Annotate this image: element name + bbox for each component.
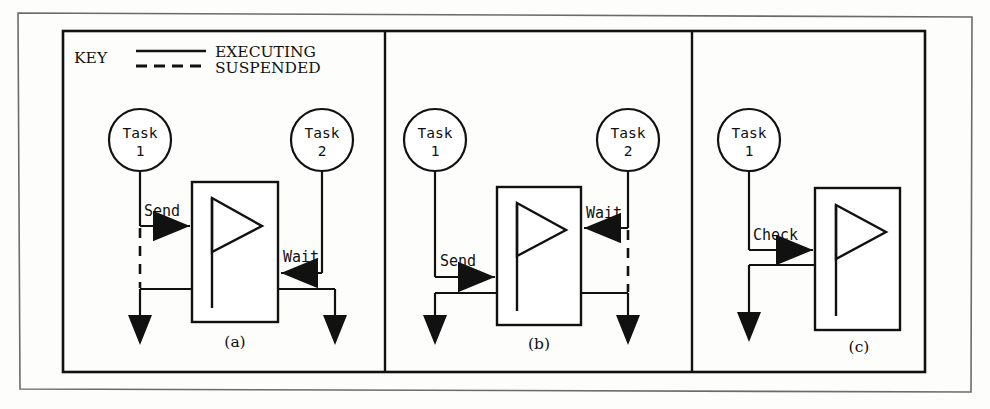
flag-box-rect (815, 188, 900, 330)
panel-c-check-label: Check (753, 226, 798, 244)
panel-b: Task 1 Send Task 2 Wait (b) (404, 109, 659, 353)
panel-a-task2-exit-arrowhead (323, 315, 347, 345)
panel-a: Task 1 Send Task 2 (109, 109, 353, 351)
task-label-line2: 1 (136, 143, 145, 159)
panel-a-caption: (a) (224, 333, 245, 351)
flag-box-rect (497, 187, 581, 325)
panel-a-wait-label: Wait (283, 248, 319, 266)
panel-b-send-label: Send (440, 252, 476, 270)
panel-c-task1-exit-arrowhead (737, 312, 761, 342)
task-label-line1: Task (305, 125, 340, 141)
task-label-line1: Task (732, 125, 767, 141)
panel-a-flag-box[interactable] (192, 182, 278, 322)
task-label-line1: Task (611, 125, 646, 141)
task-label-line2: 2 (318, 143, 327, 159)
panel-c-task1-node[interactable]: Task 1 (718, 109, 780, 171)
legend-heading: KEY (74, 49, 108, 67)
task-label-line2: 1 (431, 143, 440, 159)
panel-a-task1-node[interactable]: Task 1 (109, 109, 171, 171)
panel-b-flag-box[interactable] (497, 187, 581, 325)
task-label-line1: Task (123, 125, 158, 141)
panel-a-send-label: Send (144, 202, 180, 220)
panel-b-task2-exit-arrowhead (616, 315, 640, 345)
panel-a-task1-exit-arrowhead (128, 315, 152, 345)
panel-a-task2-node[interactable]: Task 2 (291, 109, 353, 171)
task-label-line1: Task (418, 125, 453, 141)
diagram-canvas: KEY EXECUTING SUSPENDED Task 1 Send (0, 0, 990, 409)
panel-b-wait-label: Wait (586, 204, 622, 222)
panel-c-flag-box[interactable] (815, 188, 900, 330)
flag-box-rect (192, 182, 278, 322)
legend-label-suspended: SUSPENDED (215, 59, 321, 77)
panel-c-caption: (c) (849, 338, 870, 356)
task-label-line2: 1 (745, 143, 754, 159)
legend: KEY EXECUTING SUSPENDED (74, 43, 321, 77)
figure-root: KEY EXECUTING SUSPENDED Task 1 Send (0, 0, 990, 409)
panel-b-task1-node[interactable]: Task 1 (404, 109, 466, 171)
task-label-line2: 2 (624, 143, 633, 159)
panel-b-task2-node[interactable]: Task 2 (597, 109, 659, 171)
panel-b-task1-exit-arrowhead (423, 315, 447, 345)
panel-c: Task 1 Check (c) (718, 109, 900, 356)
panel-b-caption: (b) (528, 335, 550, 353)
